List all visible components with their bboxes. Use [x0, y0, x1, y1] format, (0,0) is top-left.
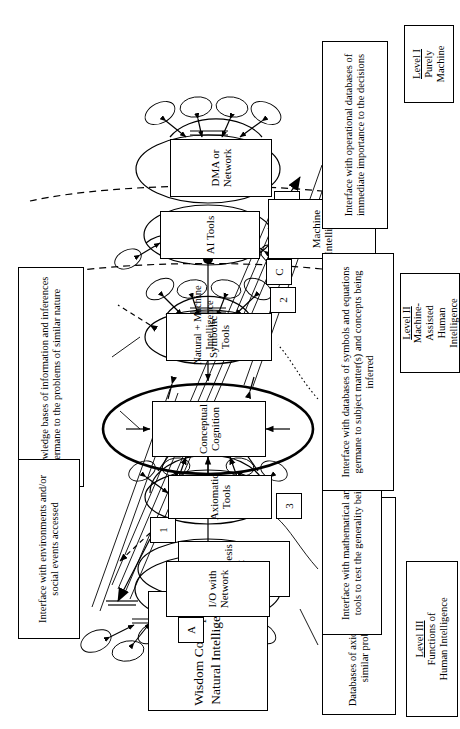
- node-axiomatic-tools-label: Axiomatic Tools: [208, 474, 233, 520]
- node-symbolic-tools[interactable]: Symbolic Tools: [166, 313, 272, 361]
- node-axiomatic-tools[interactable]: Axiomatic Tools: [168, 475, 272, 519]
- caption-symbols: Interface with databases of symbols and …: [322, 253, 394, 491]
- node-io-with-network-label: I/O with Network: [206, 570, 231, 609]
- caption-operational: Interface with operational databases of …: [322, 41, 388, 229]
- legend-level-1-heading: Level I: [411, 46, 423, 83]
- caption-knowledge: Knowledge bases of information and infer…: [18, 267, 84, 487]
- legend-level-1: Level I Purely Machine: [404, 25, 454, 103]
- leader-axioms: [300, 609, 318, 645]
- legend-level-2-body: Machine- Assisted Human Intelligence: [412, 298, 458, 348]
- node-io-with-network[interactable]: I/O with Network: [166, 561, 270, 617]
- legend-level-3-body: Functions of Human Intelligence: [426, 597, 449, 680]
- leader-knowledge: [120, 411, 140, 429]
- caption-symbols-text: Interface with databases of symbols and …: [340, 257, 375, 487]
- caption-operational-text: Interface with operational databases of …: [343, 45, 367, 225]
- marker-3-label: 3: [283, 503, 295, 509]
- node-ai-tools[interactable]: AI Tools: [160, 211, 260, 259]
- caption-environment: Interface with environments and/or socia…: [18, 459, 80, 639]
- caption-knowledge-text: Knowledge bases of information and infer…: [39, 271, 63, 483]
- legend-level-1-body: Purely Machine: [423, 46, 446, 83]
- center-flow-label: Natural + Machine Intelligence: [192, 265, 216, 385]
- marker-hypothesis-test: 1: [150, 517, 176, 543]
- leader-environment: [112, 337, 140, 357]
- marker-symbolic-tools: 2: [270, 287, 296, 313]
- marker-io-with-network: A: [178, 617, 204, 643]
- caption-environment-text: Interface with environments and/or socia…: [37, 463, 61, 635]
- node-dma-or-network-label: DMA or Network: [209, 149, 234, 188]
- marker-2-label: 2: [277, 297, 289, 303]
- legend-level-2-heading: Level II: [401, 298, 413, 348]
- node-conceptual-cognition[interactable]: Conceptual Cognition: [152, 401, 266, 457]
- marker-A-label: A: [185, 626, 197, 634]
- node-ai-tools-label: AI Tools: [204, 216, 216, 254]
- node-conceptual-cognition-label: Conceptual Cognition: [197, 404, 222, 454]
- lobes-dma: [141, 95, 285, 137]
- legend-level-3-heading: Level III: [414, 597, 426, 680]
- legend-level-3: Level III Functions of Human Intelligenc…: [406, 561, 458, 717]
- arrow-symbolic-feedback: [118, 305, 150, 325]
- leader-symbols: [278, 345, 318, 399]
- center-flow-label-text: Natural + Machine Intelligence: [192, 285, 215, 364]
- marker-axiomatic-tools: 3: [276, 493, 302, 519]
- legend-level-2: Level II Machine- Assisted Human Intelli…: [400, 273, 460, 373]
- marker-1-label: 1: [157, 527, 169, 533]
- node-dma-or-network[interactable]: DMA or Network: [170, 139, 272, 197]
- marker-C-label: C: [273, 268, 285, 275]
- marker-ai-tools: C: [266, 259, 292, 285]
